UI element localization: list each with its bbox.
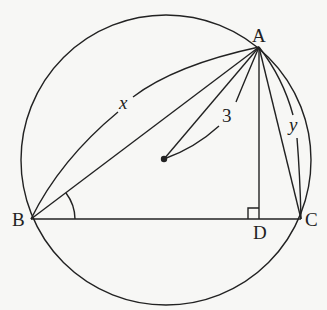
label-y: y — [287, 114, 298, 135]
radius-ao — [164, 47, 259, 159]
label-b: B — [12, 209, 25, 230]
angle-b-arc — [66, 193, 75, 219]
label-3: 3 — [222, 105, 232, 126]
label-x: x — [118, 92, 128, 113]
right-angle-mark-d — [248, 208, 259, 219]
segment-ab — [31, 47, 259, 219]
geometry-diagram: A B C D x 3 y — [0, 0, 327, 310]
label-d: D — [253, 222, 267, 243]
label-a: A — [252, 25, 266, 46]
label-c: C — [305, 209, 318, 230]
